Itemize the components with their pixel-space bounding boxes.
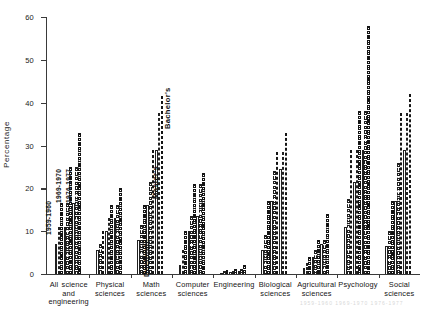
group-label: Socialsciences	[375, 281, 424, 298]
footer-ghost-text: 1959-1960 1969-1970 1976-1977	[300, 300, 404, 306]
y-tick-mark	[41, 17, 47, 18]
x-axis-line	[46, 274, 420, 275]
period-label-second: 1969-1970	[55, 169, 62, 203]
bar-segment	[358, 111, 361, 274]
bar-segment	[202, 173, 205, 274]
group-separator	[172, 274, 173, 278]
bar-segment	[308, 257, 311, 274]
group-label-line: sciences	[168, 290, 217, 299]
group-separator	[89, 274, 90, 278]
group-label-line: sciences	[292, 290, 341, 299]
period-label-first: 1959-1960	[45, 201, 52, 235]
group-separator	[131, 274, 132, 278]
bar-segment	[285, 133, 288, 274]
y-tick-label: 20	[12, 184, 34, 193]
bar-segment	[193, 184, 196, 274]
bar-segment	[184, 231, 187, 274]
group-label-line: engineering	[44, 298, 93, 307]
group-separator	[337, 274, 338, 278]
bar-segment	[102, 231, 105, 274]
y-tick-label: 50	[12, 55, 34, 64]
y-tick-mark	[41, 146, 47, 147]
y-tick-mark	[41, 60, 47, 61]
group-separator	[296, 274, 297, 278]
y-tick-label: 40	[12, 98, 34, 107]
bar-segment	[243, 265, 246, 274]
bar-segment	[234, 269, 237, 274]
degree-label-bachelors: Bachelor's	[163, 87, 172, 129]
y-tick-label: 0	[12, 270, 34, 279]
y-tick-label: 30	[12, 141, 34, 150]
bar-segment	[226, 270, 229, 274]
y-tick-label: 60	[12, 13, 34, 22]
bar-segment	[119, 188, 122, 274]
y-tick-mark	[41, 274, 47, 275]
bar-segment	[391, 201, 394, 274]
y-tick-mark	[41, 188, 47, 189]
bar-segment	[78, 133, 81, 274]
y-tick-mark	[41, 103, 47, 104]
bar-segment	[326, 214, 329, 274]
bar-segment	[276, 152, 279, 274]
bar-segment	[267, 201, 270, 274]
bar-segment	[110, 205, 113, 274]
bar-segment	[400, 113, 403, 274]
bar-segment	[317, 240, 320, 274]
group-separator	[255, 274, 256, 278]
group-separator	[379, 274, 380, 278]
chart-canvas: Percentage 0102030405060 1959-19601969-1…	[0, 0, 430, 311]
degree-label-masters: Master's	[151, 166, 160, 199]
degree-label-doctorate: Doctorate	[142, 239, 151, 277]
period-label-third: 1976-1977	[65, 169, 72, 203]
y-tick-label: 10	[12, 227, 34, 236]
bar-segment	[350, 150, 353, 274]
y-axis-title: Percentage	[2, 121, 11, 168]
bar-segment	[367, 26, 370, 274]
bar-segment	[60, 203, 63, 274]
group-separator	[213, 274, 214, 278]
group-label-line: sciences	[375, 290, 424, 299]
bar-segment	[409, 94, 412, 274]
